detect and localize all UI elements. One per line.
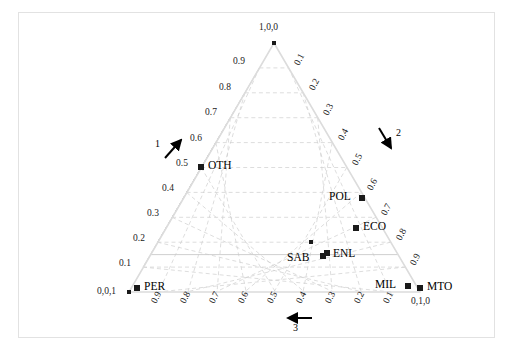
data-marker-pol[interactable] [359,195,365,201]
right-tick-0.8: 0.8 [394,227,409,242]
left-tick-0.8: 0.8 [219,83,231,93]
arrow-3-label: 3 [293,323,298,333]
corner-label-bottom-right: 0,1,0 [411,297,430,307]
data-label-enl: ENL [333,248,355,260]
right-tick-0.6: 0.6 [365,177,380,192]
data-label-oth: OTH [208,160,232,172]
arrow-1-icon [165,140,181,158]
right-tick-0.9: 0.9 [408,252,423,267]
bottom-tick-text-group: 0.9 0.8 0.7 0.6 0.5 0.4 0.3 0.2 0.1 [149,290,396,305]
data-marker-eco[interactable] [353,225,359,231]
data-label-mto: MTO [427,281,452,293]
left-tick-0.2: 0.2 [133,234,145,244]
data-marker-per[interactable] [134,285,140,291]
right-tick-0.2: 0.2 [307,77,322,92]
data-marker-oth[interactable] [198,164,204,170]
left-tick-0.9: 0.9 [233,57,245,67]
right-tick-0.4: 0.4 [336,127,351,142]
corner-label-top: 1,0,0 [259,23,278,33]
right-tick-0.5: 0.5 [350,152,365,167]
data-label-per: PER [144,281,165,293]
data-label-pol: POL [329,191,351,203]
data-label-sab: SAB [287,252,309,264]
left-tick-0.7: 0.7 [205,108,217,118]
arrow-1-label: 1 [155,139,160,149]
arrow-2-label: 2 [396,128,401,138]
corner-label-bottom-left: 0,0,1 [97,287,116,297]
left-tick-0.1: 0.1 [119,259,131,269]
right-tick-0.3: 0.3 [321,102,336,117]
corner-marker-top [272,41,276,45]
left-tick-0.6: 0.6 [190,134,202,144]
right-tick-0.1: 0.1 [292,52,307,67]
data-label-mil: MIL [375,279,396,291]
left-tick-0.5: 0.5 [176,159,188,169]
ternary-plot-canvas: 0.9 0.8 0.7 0.6 0.5 0.4 0.3 0.2 0.1 0.1 … [0,0,514,355]
ternary-plot-figure: 0.9 0.8 0.7 0.6 0.5 0.4 0.3 0.2 0.1 0.1 … [0,0,514,355]
data-label-eco: ECO [363,221,386,233]
right-tick-0.7: 0.7 [379,202,394,217]
data-marker-sab[interactable] [309,240,313,244]
data-marker-mil[interactable] [405,283,411,289]
data-marker-enl-overlap[interactable] [320,253,326,259]
left-tick-0.3: 0.3 [147,209,159,219]
corner-marker-bottom-left [127,290,131,294]
left-tick-0.4: 0.4 [162,184,174,194]
arrow-2-icon [379,128,391,148]
data-marker-mto[interactable] [417,285,423,291]
